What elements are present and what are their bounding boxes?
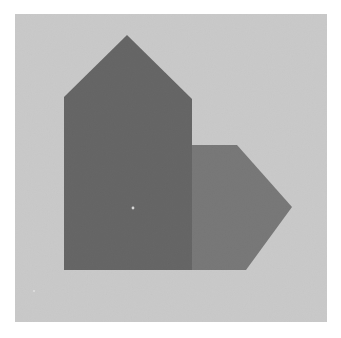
- figure-root: Two overlapping polygons on a gray panel: [0, 0, 341, 338]
- white-speck-lower-left: [33, 290, 35, 292]
- white-speck: [132, 207, 135, 210]
- figure-canvas: Two overlapping polygons on a gray panel: [0, 0, 341, 338]
